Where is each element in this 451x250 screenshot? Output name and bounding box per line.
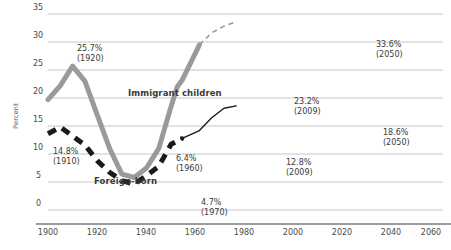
callout-year: (1970) (201, 208, 228, 218)
series-foreign-born-projection (182, 106, 236, 138)
callout-year: (1910) (53, 157, 80, 167)
callout-foreign-born-2009: 12.8% (2009) (286, 158, 313, 178)
callout-value: 6.4% (176, 154, 203, 164)
y-tick-20: 20 (33, 87, 43, 96)
callout-year: (2050) (376, 50, 403, 60)
callout-value: 18.6% (383, 128, 410, 138)
x-tick-1980: 1980 (224, 228, 264, 237)
x-tick-2020: 2020 (322, 228, 362, 237)
y-tick-10: 10 (33, 143, 43, 152)
callout-immigrant-1920: 25.7% (1920) (77, 44, 104, 64)
callout-year: (2050) (383, 138, 410, 148)
callout-immigrant-1960: 6.4% (1960) (176, 154, 203, 174)
callout-year: (2009) (294, 107, 321, 117)
callout-year: (1920) (77, 54, 104, 64)
callout-value: 12.8% (286, 158, 313, 168)
foreign-born-projection-start-marker (180, 136, 184, 140)
x-tick-2000: 2000 (273, 228, 313, 237)
y-tick-15: 15 (33, 115, 43, 124)
y-tick-5: 5 (36, 171, 41, 180)
callout-year: (2009) (286, 168, 313, 178)
y-axis-title: Percent (12, 86, 20, 146)
callout-foreign-born-2050: 18.6% (2050) (383, 128, 410, 148)
line-chart: Percent 35 30 25 20 15 10 5 0 1900 1920 … (0, 0, 451, 250)
callout-foreign-born-1970: 4.7% (1970) (201, 198, 228, 218)
callout-value: 4.7% (201, 198, 228, 208)
x-tick-2060: 2060 (411, 228, 451, 237)
x-tick-1960: 1960 (175, 228, 215, 237)
y-tick-0: 0 (36, 199, 41, 208)
callout-value: 33.6% (376, 40, 403, 50)
callout-immigrant-2050: 33.6% (2050) (376, 40, 403, 60)
label-immigrant-children: Immigrant children (128, 88, 222, 98)
callout-value: 25.7% (77, 44, 104, 54)
x-tick-2040: 2040 (371, 228, 411, 237)
x-tick-1900: 1900 (28, 228, 68, 237)
callout-immigrant-2009: 23.2% (2009) (294, 97, 321, 117)
callout-value: 23.2% (294, 97, 321, 107)
y-tick-25: 25 (33, 59, 43, 68)
callout-value: 14.8% (53, 147, 80, 157)
label-foreign-born: Foreign-born (94, 176, 157, 186)
x-tick-1940: 1940 (126, 228, 166, 237)
y-tick-35: 35 (33, 3, 43, 12)
callout-foreign-born-1910: 14.8% (1910) (53, 147, 80, 167)
callout-year: (1960) (176, 164, 203, 174)
y-tick-30: 30 (33, 31, 43, 40)
series-immigrant-children-projection (199, 22, 236, 45)
x-tick-1920: 1920 (77, 228, 117, 237)
